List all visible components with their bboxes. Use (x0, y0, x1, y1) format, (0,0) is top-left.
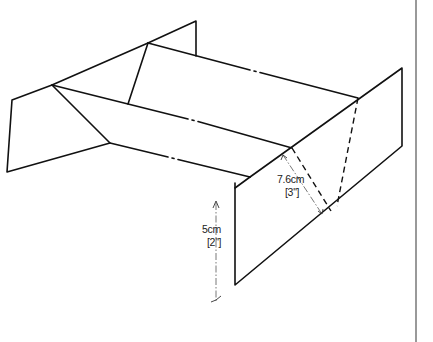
right-end-panel (235, 68, 402, 285)
left-end-panel (7, 85, 110, 172)
middle-long-edge (52, 85, 292, 148)
height-imperial-label: [2"] (207, 236, 222, 248)
inner-fold-edge (128, 43, 148, 104)
box-diagram: 7.6cm [3"] 5cm [2"] (0, 0, 433, 342)
height-dimension: 5cm [2"] (202, 201, 222, 302)
depth-metric-label: 7.6cm (277, 173, 305, 185)
back-end-panel (148, 21, 196, 56)
depth-dimension: 7.6cm [3"] (277, 155, 323, 214)
hidden-edges (292, 98, 358, 211)
height-metric-label: 5cm (202, 223, 221, 235)
bottom-long-edge (110, 143, 250, 177)
depth-imperial-label: [3"] (285, 186, 300, 198)
back-long-edge (148, 43, 358, 98)
top-rim-edge (52, 43, 148, 85)
